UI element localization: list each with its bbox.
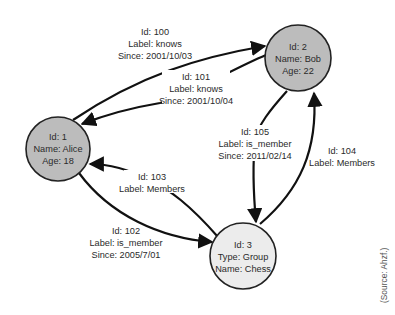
- edge-101-id: Id: 101: [182, 72, 210, 82]
- edge-103-id: Id: 103: [138, 172, 166, 182]
- edge-105-since: Since: 2011/02/14: [218, 151, 291, 161]
- node-alice-age: Age: 18: [42, 156, 74, 166]
- node-chess-name: Name: Chess: [215, 264, 271, 274]
- edge-101-label: Label: knows: [169, 84, 223, 94]
- edge-103-label: Label: Members: [119, 184, 185, 194]
- node-bob-age: Age: 22: [282, 66, 314, 76]
- edge-102-since: Since: 2005/7/01: [92, 250, 161, 260]
- edge-102-label: Label: is_member: [89, 238, 162, 248]
- edge-100-label: Label: knows: [128, 39, 182, 49]
- node-alice[interactable]: Id: 1 Name: Alice Age: 18: [26, 117, 90, 181]
- node-bob[interactable]: Id: 2 Name: Bob Age: 22: [265, 25, 331, 91]
- edge-label-100: Id: 100 Label: knows Since: 2001/10/03: [118, 27, 192, 61]
- source-credit: (Source: Ahzf.): [379, 247, 389, 303]
- edge-105-id: Id: 105: [241, 127, 269, 137]
- node-chess-id: Id: 3: [234, 240, 252, 250]
- edge-105-label: Label: is_member: [218, 139, 291, 149]
- node-alice-name: Name: Alice: [33, 144, 82, 154]
- edge-label-104: Id: 104 Label: Members: [309, 146, 375, 168]
- edge-label-102: Id: 102 Label: is_member Since: 2005/7/0…: [89, 226, 162, 260]
- node-bob-id: Id: 2: [289, 42, 307, 52]
- property-graph-diagram: Id: 1 Name: Alice Age: 18 Id: 2 Name: Bo…: [0, 0, 395, 315]
- edge-100-id: Id: 100: [141, 27, 169, 37]
- edge-102-id: Id: 102: [112, 226, 140, 236]
- edge-101-since: Since: 2001/10/04: [159, 96, 233, 106]
- node-alice-id: Id: 1: [49, 132, 67, 142]
- edge-104-id: Id: 104: [328, 146, 356, 156]
- edge-104-label: Label: Members: [309, 158, 375, 168]
- node-chess-type: Type: Group: [218, 252, 269, 262]
- edge-100-since: Since: 2001/10/03: [118, 51, 192, 61]
- node-bob-name: Name: Bob: [275, 54, 321, 64]
- node-chess-group[interactable]: Id: 3 Type: Group Name: Chess: [210, 223, 276, 289]
